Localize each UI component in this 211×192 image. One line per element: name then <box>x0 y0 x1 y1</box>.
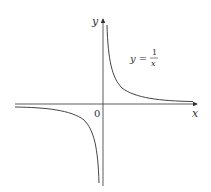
equation-lhs: y = <box>129 53 147 64</box>
curve-negative-branch <box>15 107 99 183</box>
x-axis-label: x <box>192 107 199 120</box>
equation-annotation: y = 1 x <box>129 48 158 68</box>
y-axis-label: y <box>91 15 99 28</box>
origin-label: 0 <box>94 108 100 119</box>
curve-positive-branch <box>107 25 193 102</box>
graph-canvas: y x 0 y = 1 x <box>0 0 211 192</box>
equation-denominator: x <box>151 59 156 68</box>
equation-numerator: 1 <box>152 48 157 57</box>
